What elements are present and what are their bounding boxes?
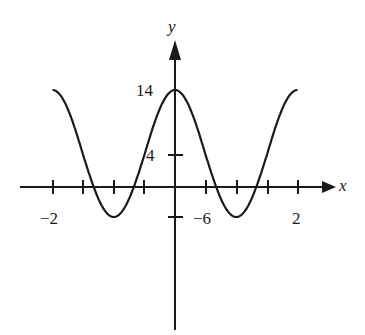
x-tick-label-2: 2 bbox=[292, 210, 301, 227]
y-tick-label-neg6: −6 bbox=[193, 210, 211, 227]
y-tick-label-14: 14 bbox=[136, 82, 153, 99]
y-arrow-icon bbox=[169, 40, 181, 60]
x-tick-label-neg2: −2 bbox=[40, 210, 58, 227]
plot bbox=[0, 0, 365, 335]
y-axis-label: y bbox=[168, 18, 176, 35]
x-axis-label: x bbox=[339, 177, 347, 194]
x-arrow-icon bbox=[322, 181, 336, 193]
y-tick-label-4: 4 bbox=[146, 147, 155, 164]
